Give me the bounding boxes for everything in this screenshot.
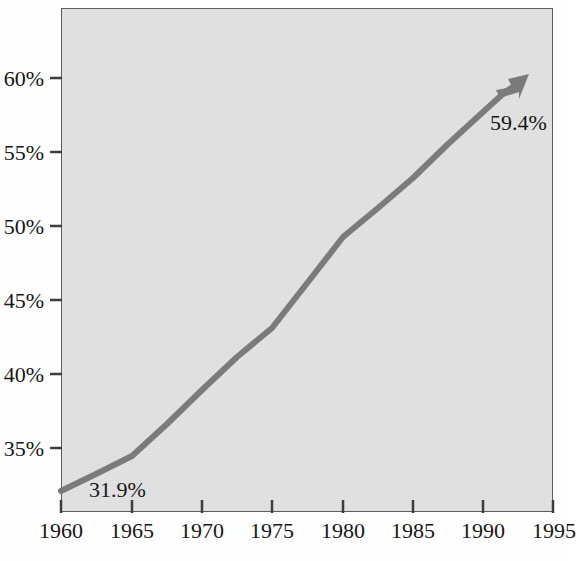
y-tick-label-55: 55% [0,140,44,166]
line-arrowhead-icon [496,74,529,99]
end-value-label: 59.4% [490,110,547,136]
start-value-label: 31.9% [89,477,146,503]
x-tick-label-1990: 1990 [445,518,521,544]
x-tick-label-1985: 1985 [375,518,451,544]
y-tick-label-40: 40% [0,362,44,388]
x-tick-label-1980: 1980 [305,518,381,544]
x-tick-label-1970: 1970 [164,518,240,544]
x-tick-label-1975: 1975 [234,518,310,544]
y-tick-label-35: 35% [0,436,44,462]
y-tick-label-45: 45% [0,288,44,314]
x-tick-label-1995: 1995 [516,518,580,544]
y-axis-ticks [50,78,62,448]
data-line-series-percentage [61,82,521,491]
x-tick-label-1960: 1960 [23,518,99,544]
y-tick-label-50: 50% [0,214,44,240]
y-tick-label-60: 60% [0,66,44,92]
x-tick-label-1965: 1965 [94,518,170,544]
